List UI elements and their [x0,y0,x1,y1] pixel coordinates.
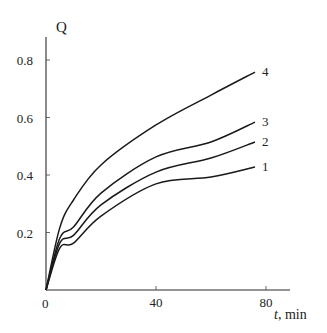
y-tick-label: 0.8 [17,53,33,68]
series-label-2: 2 [262,134,269,149]
series-line-2 [46,142,255,290]
axes [46,37,290,290]
series-line-4 [46,72,255,290]
series-line-1 [46,167,255,290]
x-tick-label: 40 [150,295,163,310]
series-label-3: 3 [262,114,269,129]
y-tick-label: 0.2 [17,226,33,241]
ticks: 40800.20.40.60.8 [17,53,273,310]
x-tick-label: 80 [260,295,273,310]
x-axis-label-unit: , min [278,307,307,322]
chart: 40800.20.40.60.8 1234 Q 0 t, min [0,0,327,333]
y-tick-label: 0.4 [17,168,34,183]
x-axis-label: t, min [274,307,307,322]
series-label-4: 4 [262,64,269,79]
series-label-1: 1 [262,159,269,174]
y-tick-label: 0.6 [17,111,34,126]
curves: 1234 [46,64,269,290]
origin-label: 0 [42,296,49,311]
y-axis-label: Q [56,19,67,35]
series-line-3 [46,122,255,290]
